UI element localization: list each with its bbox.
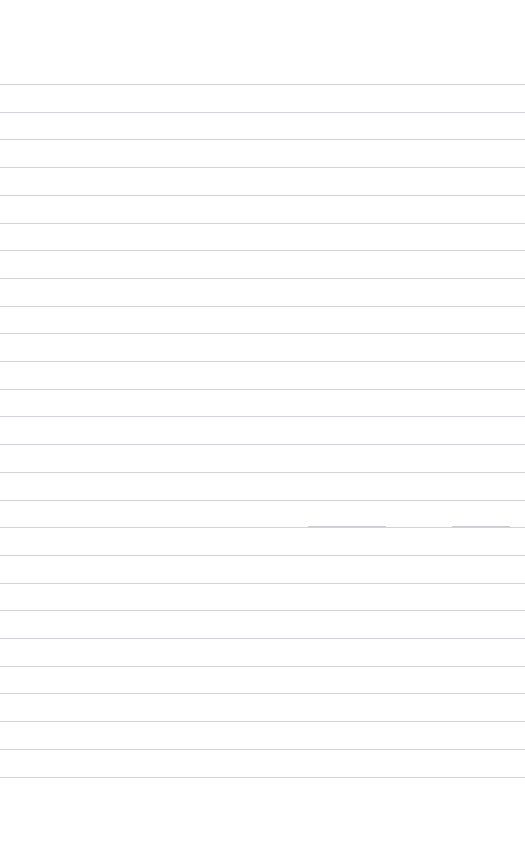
lined-paper-page xyxy=(0,0,525,862)
page-bottom-margin xyxy=(0,776,525,862)
writing-area[interactable] xyxy=(0,0,525,862)
